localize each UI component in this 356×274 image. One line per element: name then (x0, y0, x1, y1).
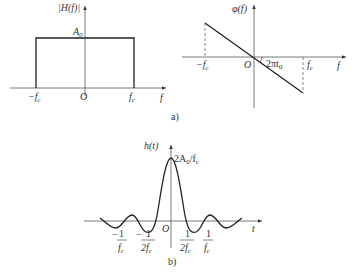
svg-text:1: 1 (146, 228, 151, 239)
impulse-origin-label: O (162, 223, 169, 234)
magnitude-ylabel: |H(f)| (58, 2, 80, 14)
svg-text:fc: fc (204, 242, 211, 255)
svg-text:2fc: 2fc (180, 242, 192, 255)
magnitude-xlabel: f (160, 92, 164, 103)
magnitude-plot: |H(f)| A0 −fc O fc f (10, 2, 166, 104)
svg-text:−: − (136, 229, 142, 240)
impulse-plot: h(t) 2A0/fc O t − 1 fc − 1 2fc 1 2fc 1 f… (84, 140, 262, 255)
pos-cutoff-label: fc (129, 91, 136, 104)
phase-plot: φ(f) −fc O 2πt0 fc f (182, 3, 346, 108)
phase-xlabel: f (337, 60, 341, 71)
svg-text:−: − (112, 229, 118, 240)
phase-pos-cutoff-label: fc (307, 59, 314, 72)
figure-canvas: |H(f)| A0 −fc O fc f φ(f) −fc O 2πt0 fc … (0, 0, 356, 274)
svg-text:1: 1 (119, 228, 124, 239)
neg-cutoff-label: −fc (28, 91, 42, 104)
tick-neg-1-over-2fc: − 1 2fc (136, 228, 155, 255)
impulse-xlabel: t (252, 223, 255, 234)
slope-angle-arc (260, 57, 262, 62)
svg-text:1: 1 (185, 228, 190, 239)
impulse-ylabel: h(t) (144, 140, 159, 152)
level-label: A0 (72, 26, 83, 39)
origin-label: O (80, 91, 87, 102)
caption-b: b) (168, 256, 176, 268)
phase-neg-cutoff-label: −fc (196, 59, 210, 72)
caption-a: a) (171, 111, 179, 123)
svg-text:fc: fc (118, 242, 125, 255)
tick-pos-1-over-fc: 1 fc (203, 228, 213, 255)
tick-neg-1-over-fc: − 1 fc (112, 228, 127, 255)
phase-origin-label: O (244, 59, 251, 70)
svg-text:2fc: 2fc (141, 242, 153, 255)
phase-ylabel: φ(f) (232, 3, 248, 15)
peak-label: 2A0/fc (174, 153, 199, 166)
svg-text:1: 1 (206, 228, 211, 239)
